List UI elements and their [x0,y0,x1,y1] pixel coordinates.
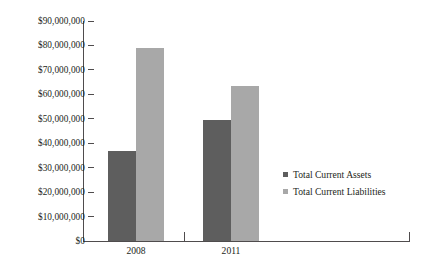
y-axis-tick: $40,000,000 [0,137,94,149]
bar-2011-series-0 [203,120,231,241]
bar-chart: $90,000,000$80,000,000$70,000,000$60,000… [0,0,433,277]
y-axis-tick: $0 [0,235,94,247]
y-axis-tick: $10,000,000 [0,211,94,223]
y-axis-tick-label: $70,000,000 [38,64,85,76]
y-axis-tick-label: $40,000,000 [38,137,85,149]
bar-2008-series-1 [136,48,164,241]
y-axis-tick-label: $60,000,000 [38,88,85,100]
y-axis-tick: $70,000,000 [0,64,94,76]
y-axis-tick-label: $30,000,000 [38,162,85,174]
y-axis-tick: $90,000,000 [0,15,94,27]
y-axis-tick-mark [88,241,94,242]
y-axis-tick-mark [88,94,94,95]
y-axis-tick: $80,000,000 [0,39,94,51]
y-axis-tick-mark [88,118,94,119]
x-axis-label-2008: 2008 [106,245,166,256]
y-axis-tick-label: $0 [76,235,85,247]
y-axis-tick-mark [88,167,94,168]
y-axis-tick-mark [88,69,94,70]
legend-label: Total Current Liabilities [293,183,386,200]
bar-2011-series-1 [231,86,259,241]
y-axis-tick: $20,000,000 [0,186,94,198]
x-axis-end-tick [409,232,410,241]
y-axis-line [83,21,84,241]
y-axis-tick-label: $90,000,000 [38,15,85,27]
x-axis-mid-tick [184,232,185,241]
y-axis-tick: $30,000,000 [0,162,94,174]
legend-swatch-icon [283,189,288,194]
legend-item-0[interactable]: Total Current Assets [283,166,386,183]
y-axis-tick-label: $80,000,000 [38,39,85,51]
x-axis-line [83,241,410,242]
y-axis-tick: $60,000,000 [0,88,94,100]
y-axis-tick-mark [88,21,94,22]
y-axis-tick-mark [88,192,94,193]
legend-label: Total Current Assets [293,166,371,183]
y-axis-tick-label: $20,000,000 [38,186,85,198]
y-axis-tick-mark [88,143,94,144]
chart-legend: Total Current AssetsTotal Current Liabil… [283,166,386,200]
y-axis-tick-label: $50,000,000 [38,113,85,125]
x-axis-label-2011: 2011 [201,245,261,256]
y-axis-tick-label: $10,000,000 [38,211,85,223]
y-axis-tick-mark [88,45,94,46]
legend-item-1[interactable]: Total Current Liabilities [283,183,386,200]
bar-2008-series-0 [108,151,136,241]
y-axis-tick: $50,000,000 [0,113,94,125]
y-axis-tick-mark [88,216,94,217]
legend-swatch-icon [283,172,288,177]
